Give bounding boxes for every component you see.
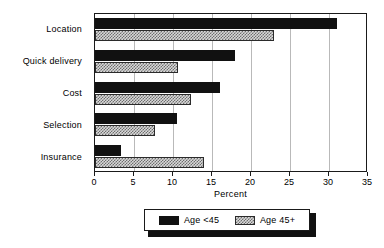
bar <box>95 157 204 168</box>
x-tick <box>172 172 173 176</box>
x-tick <box>94 172 95 176</box>
category-label: Location <box>0 24 82 34</box>
legend-swatch-icon <box>235 216 255 225</box>
bar-chart: Location Quick delivery Cost Selection I… <box>0 0 384 248</box>
x-tick-label: 0 <box>91 177 96 187</box>
legend-label: Age <45 <box>184 215 219 225</box>
x-tick <box>250 172 251 176</box>
category-axis-labels: Location Quick delivery Cost Selection I… <box>0 13 88 172</box>
x-tick-label: 20 <box>245 177 255 187</box>
x-tick <box>367 172 368 176</box>
x-axis-title: Percent <box>94 189 367 199</box>
x-tick-label: 30 <box>323 177 333 187</box>
legend-item-age-45-plus: Age 45+ <box>235 215 295 225</box>
legend-item-age-under-45: Age <45 <box>159 215 219 225</box>
bar <box>95 125 155 136</box>
category-label: Insurance <box>0 152 82 162</box>
bar <box>95 113 177 124</box>
legend-label: Age 45+ <box>260 215 295 225</box>
bar-group <box>95 46 368 78</box>
legend-swatch-icon <box>159 216 179 225</box>
bar <box>95 145 121 156</box>
bar <box>95 30 274 41</box>
bar <box>95 50 235 61</box>
category-label: Selection <box>0 120 82 130</box>
bar <box>95 94 191 105</box>
x-tick <box>133 172 134 176</box>
legend: Age <45 Age 45+ <box>144 209 316 237</box>
legend-box: Age <45 Age 45+ <box>144 209 310 231</box>
x-tick-label: 25 <box>284 177 294 187</box>
x-tick-label: 15 <box>206 177 216 187</box>
bar-group <box>95 78 368 110</box>
plot-area <box>94 13 367 172</box>
bar <box>95 82 220 93</box>
x-tick <box>289 172 290 176</box>
bar-group <box>95 141 368 173</box>
bar <box>95 62 178 73</box>
x-tick-label: 5 <box>130 177 135 187</box>
x-tick <box>328 172 329 176</box>
bar-group <box>95 14 368 46</box>
x-tick <box>211 172 212 176</box>
x-tick-label: 10 <box>167 177 177 187</box>
x-tick-label: 35 <box>362 177 372 187</box>
category-label: Quick delivery <box>0 56 82 66</box>
bar-group <box>95 109 368 141</box>
bar <box>95 18 337 29</box>
category-label: Cost <box>0 88 82 98</box>
